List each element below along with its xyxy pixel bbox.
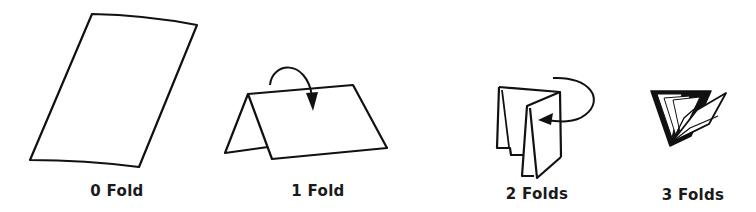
label-one-fold: 1 Fold — [291, 182, 344, 200]
fold-diagram-drawing — [0, 0, 756, 212]
label-three-folds: 3 Folds — [662, 186, 725, 204]
label-zero-fold: 0 Fold — [90, 182, 143, 200]
flat-sheet-icon — [30, 14, 197, 167]
single-fold-sheet-icon — [225, 85, 387, 159]
fold-diagram: 0 Fold 1 Fold 2 Folds 3 Folds — [0, 0, 756, 212]
label-two-folds: 2 Folds — [506, 185, 569, 203]
triple-fold-booklet-icon — [651, 91, 726, 146]
double-fold-booklet-icon — [497, 87, 561, 178]
rotate-fold-arrow-icon — [538, 78, 594, 125]
